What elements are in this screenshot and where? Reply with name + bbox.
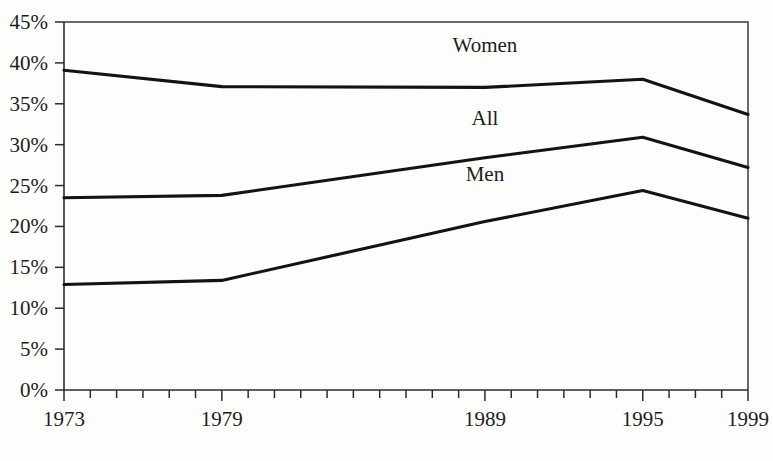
svg-text:5%: 5% [20, 337, 48, 361]
y-axis-ticks [55, 22, 64, 390]
data-series-lines [64, 70, 748, 284]
svg-text:30%: 30% [10, 133, 49, 157]
x-axis-tick-labels: 19731979198919951999 [43, 407, 769, 431]
svg-text:40%: 40% [10, 51, 49, 75]
x-axis-ticks [64, 390, 748, 401]
svg-text:1995: 1995 [622, 407, 664, 431]
svg-text:35%: 35% [10, 92, 49, 116]
y-axis-tick-labels: 0%5%10%15%20%25%30%35%40%45% [10, 10, 49, 402]
series-label-women: Women [453, 33, 518, 57]
svg-text:1989: 1989 [464, 407, 506, 431]
series-label-all: All [472, 106, 499, 130]
svg-text:1973: 1973 [43, 407, 85, 431]
series-line-all [64, 137, 748, 198]
series-line-women [64, 70, 748, 114]
series-line-men [64, 190, 748, 284]
svg-text:0%: 0% [20, 378, 48, 402]
svg-text:45%: 45% [10, 10, 49, 34]
line-chart: 0%5%10%15%20%25%30%35%40%45% 19731979198… [0, 0, 773, 461]
series-inline-labels: WomenAllMen [453, 33, 518, 185]
chart-figure: 0%5%10%15%20%25%30%35%40%45% 19731979198… [0, 0, 773, 461]
svg-text:10%: 10% [10, 296, 49, 320]
svg-text:20%: 20% [10, 214, 49, 238]
svg-text:1999: 1999 [727, 407, 769, 431]
svg-text:1979: 1979 [201, 407, 243, 431]
svg-text:15%: 15% [10, 255, 49, 279]
plot-frame [64, 22, 748, 390]
svg-text:25%: 25% [10, 174, 49, 198]
series-label-men: Men [466, 162, 505, 186]
